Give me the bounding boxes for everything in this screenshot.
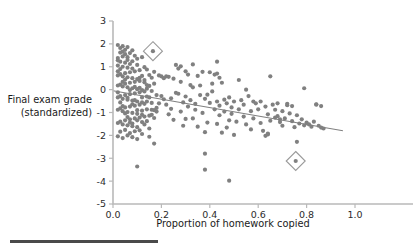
y-tick-label: 3: [100, 15, 106, 26]
data-point: [133, 129, 137, 133]
data-point: [154, 106, 158, 110]
data-point: [121, 97, 125, 101]
y-tick-label: -4: [97, 176, 106, 187]
data-point: [280, 124, 284, 128]
data-point: [135, 118, 139, 122]
data-point: [242, 103, 246, 107]
data-point: [159, 74, 163, 78]
data-point: [210, 82, 214, 86]
data-point: [125, 96, 129, 100]
data-point: [167, 112, 171, 116]
data-point: [227, 95, 231, 99]
data-point: [176, 92, 180, 96]
data-point: [249, 127, 253, 131]
data-point: [217, 76, 221, 80]
data-point: [116, 69, 120, 73]
data-point: [171, 77, 175, 81]
data-point: [152, 82, 156, 86]
data-point: [116, 73, 120, 77]
data-point: [154, 93, 158, 97]
highlighted-data-point: [151, 49, 155, 53]
data-point: [290, 104, 294, 108]
data-point: [169, 107, 173, 111]
data-point: [152, 70, 156, 74]
y-tick-label: -1: [97, 107, 106, 118]
data-point: [273, 108, 277, 112]
data-point: [251, 116, 255, 120]
data-point: [123, 61, 127, 65]
data-point: [125, 45, 129, 49]
data-point: [142, 80, 146, 84]
data-point: [251, 99, 255, 103]
data-point: [147, 126, 151, 130]
data-point: [191, 85, 195, 89]
data-point: [125, 55, 129, 59]
y-tick-label: -5: [97, 198, 106, 209]
plot-canvas: 3210-1-2-3-4-50.00.20.40.60.81.0 Proport…: [0, 0, 419, 248]
data-point: [229, 105, 233, 109]
data-point: [312, 120, 316, 124]
y-axis-title-line1: Final exam grade: [7, 94, 92, 105]
data-point: [135, 108, 139, 112]
data-point: [133, 85, 137, 89]
data-point: [179, 109, 183, 113]
data-point: [188, 98, 192, 102]
data-point: [208, 70, 212, 74]
data-point: [193, 108, 197, 112]
data-point: [280, 109, 284, 113]
data-point: [140, 55, 144, 59]
data-point: [123, 128, 127, 132]
data-point: [138, 90, 142, 94]
data-point: [215, 99, 219, 103]
data-point: [138, 76, 142, 80]
data-point: [123, 111, 127, 115]
data-point: [145, 67, 149, 71]
data-point: [169, 96, 173, 100]
data-point: [128, 70, 132, 74]
data-point: [184, 94, 188, 98]
data-point: [167, 75, 171, 79]
data-point: [237, 107, 241, 111]
data-point: [150, 108, 154, 112]
data-point: [121, 84, 125, 88]
footer-rule: [10, 240, 158, 243]
data-point: [140, 109, 144, 113]
data-point: [288, 111, 292, 115]
data-point: [232, 133, 236, 137]
data-point: [295, 113, 299, 117]
data-point: [292, 125, 296, 129]
data-point: [171, 118, 175, 122]
data-point: [116, 108, 120, 112]
data-point: [275, 101, 279, 105]
data-point: [259, 99, 263, 103]
data-point: [152, 142, 156, 146]
data-point: [196, 125, 200, 129]
data-point: [133, 98, 137, 102]
y-tick-label: 2: [100, 38, 106, 49]
data-point: [239, 98, 243, 102]
data-point: [263, 104, 267, 108]
data-point: [271, 103, 275, 107]
data-point: [179, 80, 183, 84]
data-point: [138, 128, 142, 132]
data-point: [200, 70, 204, 74]
data-point: [203, 97, 207, 101]
data-point: [234, 120, 238, 124]
data-point: [150, 76, 154, 80]
y-axis-title-line2: (standardized): [21, 107, 92, 118]
data-point: [184, 69, 188, 73]
y-tick-label: -3: [97, 153, 106, 164]
data-point: [157, 101, 161, 105]
data-point: [145, 87, 149, 91]
data-point: [225, 126, 229, 130]
data-point: [237, 78, 241, 82]
data-point: [232, 99, 236, 103]
data-point: [130, 121, 134, 125]
data-point: [285, 102, 289, 106]
data-point: [118, 130, 122, 134]
data-point: [118, 100, 122, 104]
data-point: [200, 111, 204, 115]
data-point: [203, 168, 207, 172]
data-point: [130, 76, 134, 80]
data-point: [205, 120, 209, 124]
